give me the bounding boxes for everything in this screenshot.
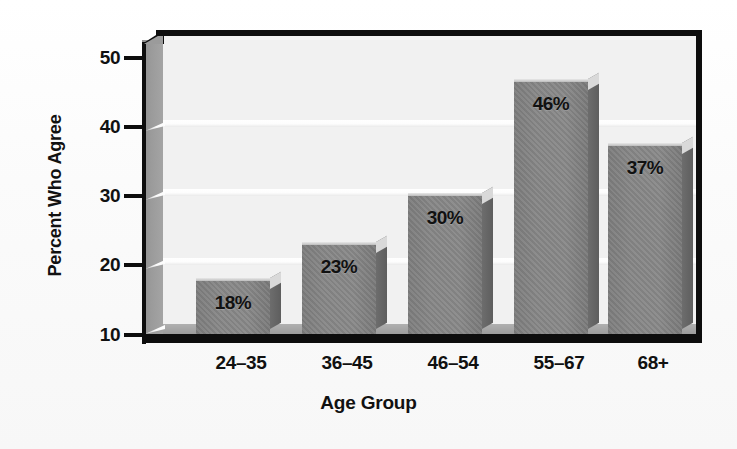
x-axis-title: Age Group bbox=[0, 392, 737, 414]
bar-value-68-plus: 37% bbox=[608, 157, 682, 179]
x-tick-label-46-54: 46–54 bbox=[408, 352, 498, 374]
bar-value-24-35: 18% bbox=[196, 292, 270, 314]
gridline-40 bbox=[162, 120, 696, 127]
bar-value-55-67: 46% bbox=[514, 93, 588, 115]
bar-side-68-plus bbox=[682, 137, 693, 329]
bar-side-46-54 bbox=[482, 187, 493, 329]
bar-cap-highlight-55-67 bbox=[514, 79, 588, 82]
y-tick-label-10: 10 bbox=[100, 325, 120, 345]
plot-right-edge bbox=[696, 30, 702, 340]
y-tick-label-30: 30 bbox=[100, 186, 120, 206]
bar-36-45[interactable]: 23% bbox=[302, 242, 376, 335]
plot-left-edge bbox=[142, 42, 146, 344]
bar-side-55-67 bbox=[588, 73, 599, 329]
x-tick-label-24-35: 24–35 bbox=[196, 352, 286, 374]
bar-cap-highlight-24-35 bbox=[196, 278, 270, 281]
y-tick-label-20: 20 bbox=[100, 255, 120, 275]
x-tick-label-36-45: 36–45 bbox=[302, 352, 392, 374]
bar-68-plus[interactable]: 37% bbox=[608, 143, 682, 335]
x-tick-label-68-plus: 68+ bbox=[608, 352, 698, 374]
bar-46-54[interactable]: 30% bbox=[408, 193, 482, 335]
bar-value-36-45: 23% bbox=[302, 256, 376, 278]
bar-value-46-54: 30% bbox=[408, 207, 482, 229]
bar-cap-highlight-68-plus bbox=[608, 143, 682, 146]
chart-figure: 50 40 30 20 10 Percent Who Agree bbox=[0, 0, 737, 449]
x-tick-label-55-67: 55–67 bbox=[514, 352, 604, 374]
y-axis: 50 40 30 20 10 bbox=[0, 0, 146, 449]
bar-face-55-67 bbox=[514, 79, 588, 335]
bar-cap-highlight-36-45 bbox=[302, 242, 376, 245]
plot-top-edge bbox=[156, 30, 702, 36]
bar-cap-highlight-46-54 bbox=[408, 193, 482, 196]
y-axis-title: Percent Who Agree bbox=[45, 56, 66, 336]
y-tick-label-50: 50 bbox=[100, 48, 120, 68]
bar-55-67[interactable]: 46% bbox=[514, 79, 588, 335]
y-tick-label-40: 40 bbox=[100, 117, 120, 137]
plot-baseline bbox=[142, 334, 702, 343]
bar-24-35[interactable]: 18% bbox=[196, 278, 270, 335]
plot-area: 18% 23% 30% 46% bbox=[142, 30, 702, 346]
